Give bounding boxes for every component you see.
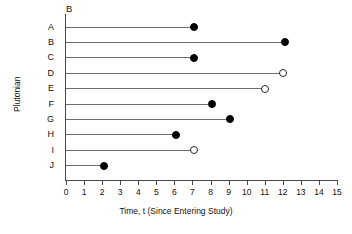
open-circle-marker[interactable] [190,146,198,154]
y-axis-tick-label: E [34,83,54,94]
open-circle-marker[interactable] [261,85,269,93]
y-axis-tick-label: H [34,129,54,140]
stem-line [66,73,283,74]
stem-line [66,134,176,135]
stem-line [66,165,104,166]
x-axis-tick [174,181,175,185]
x-axis-tick-label: 9 [219,187,239,198]
x-axis-tick [229,181,230,185]
x-axis-tick [156,181,157,185]
x-axis-tick [138,181,139,185]
x-axis-tick-label: 5 [146,187,166,198]
x-axis-tick [102,181,103,185]
y-axis-tick-label: C [34,52,54,63]
x-axis-line [65,180,338,181]
y-axis-tick-label: G [34,114,54,125]
x-axis-tick-label: 7 [182,187,202,198]
stem-line [66,119,230,120]
x-axis-tick [84,181,85,185]
x-axis-tick-label: 13 [291,187,311,198]
filled-circle-marker[interactable] [172,131,180,139]
x-axis-tick [192,181,193,185]
y-axis-tick-label: D [34,68,54,79]
x-axis-tick-label: 10 [237,187,257,198]
filled-circle-marker[interactable] [281,38,289,46]
x-axis-tick [337,181,338,185]
stem-line [66,88,265,89]
filled-circle-marker[interactable] [100,162,108,170]
stem-line [66,42,285,43]
x-axis-tick-label: 1 [74,187,94,198]
lollipop-chart-figure: B Plutonian ABCDEFGHIJ 01234567891011121… [0,0,352,234]
filled-circle-marker[interactable] [226,115,234,123]
panel-label: B [66,4,73,14]
x-axis-tick-label: 12 [273,187,293,198]
x-axis-tick-label: 2 [92,187,112,198]
filled-circle-marker[interactable] [190,54,198,62]
x-axis-tick [265,181,266,185]
y-axis-tick-label: B [34,37,54,48]
x-axis-tick [319,181,320,185]
y-axis-tick-label: F [34,99,54,110]
x-axis-tick [120,181,121,185]
x-axis-tick-label: 3 [110,187,130,198]
open-circle-marker[interactable] [279,69,287,77]
x-axis-tick [301,181,302,185]
y-axis-tick-label: I [34,145,54,156]
stem-line [66,150,194,151]
y-axis-title: Plutonian [13,44,22,144]
x-axis-tick [211,181,212,185]
x-axis-tick-label: 6 [164,187,184,198]
y-axis-tick-label: A [34,22,54,33]
stem-line [66,27,194,28]
x-axis-tick-label: 8 [201,187,221,198]
y-axis-tick-label: J [34,160,54,171]
x-axis-tick-label: 4 [128,187,148,198]
x-axis-tick-label: 14 [309,187,329,198]
x-axis-title: Time, t (Since Entering Study) [0,206,352,217]
filled-circle-marker[interactable] [208,100,216,108]
x-axis-tick [247,181,248,185]
x-axis-tick [66,181,67,185]
x-axis-tick [283,181,284,185]
x-axis-tick-label: 11 [255,187,275,198]
stem-line [66,57,194,58]
x-axis-tick-label: 0 [56,187,76,198]
y-axis-line [65,14,66,181]
x-axis-tick-label: 15 [327,187,347,198]
filled-circle-marker[interactable] [190,23,198,31]
stem-line [66,104,212,105]
